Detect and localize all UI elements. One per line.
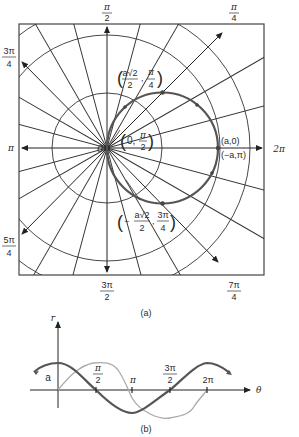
- point-label-a-0: (a,0): [221, 136, 240, 146]
- svg-text:,: ,: [152, 216, 155, 226]
- svg-text:(: (: [120, 131, 126, 151]
- label-3pi-over-4-num: 3π: [3, 46, 14, 56]
- caption-a: (a): [141, 308, 152, 318]
- label-3pi-over-2-den: 2: [104, 292, 109, 302]
- tick-3pi-over-2-den: 2: [167, 375, 172, 385]
- svg-text:2: 2: [139, 223, 144, 233]
- label-3pi-over-4-den: 4: [6, 59, 11, 69]
- label-pi-over-2-num: π: [103, 2, 111, 12]
- theta-axis-label: θ: [256, 385, 262, 395]
- svg-text:π: π: [147, 67, 155, 77]
- label-5pi-over-4-den: 4: [6, 248, 11, 258]
- label-7pi-over-4-num: 7π: [228, 280, 239, 290]
- label-2pi: 2π: [272, 144, 286, 154]
- svg-text:−: −: [124, 216, 129, 226]
- tick-pi-over-2-num: π: [94, 363, 102, 373]
- label-pi-over-4-den: 4: [231, 13, 236, 23]
- svg-text:): ): [157, 68, 163, 88]
- svg-text:2: 2: [140, 142, 145, 152]
- svg-text:(: (: [117, 212, 123, 232]
- point-label-neg-a-root2-3pi-over-4: ( − a√2 2 , 3π 4 ): [117, 210, 176, 233]
- polar-figure: π 2 π 4 3π 4 π 2π 5π 4 3π 2 7π 4 0 ( a√2…: [0, 0, 299, 437]
- svg-text:,: ,: [141, 73, 144, 83]
- amplitude-label: a: [45, 372, 51, 383]
- svg-text:a√2: a√2: [123, 68, 138, 78]
- r-axis-label: r: [51, 313, 56, 323]
- cartesian-figure: r θ a π 2 π 3π 2 2π (b): [30, 313, 262, 434]
- label-pi-over-4-num: π: [230, 2, 238, 12]
- caption-b: (b): [141, 424, 152, 434]
- svg-text:2: 2: [127, 80, 132, 90]
- svg-text:a√2: a√2: [135, 210, 150, 220]
- tick-pi: π: [129, 375, 137, 385]
- tick-3pi-over-2-num: 3π: [164, 363, 175, 373]
- svg-text:π: π: [139, 130, 147, 140]
- label-5pi-over-4-num: 5π: [3, 235, 14, 245]
- svg-text:0,: 0,: [127, 135, 135, 146]
- svg-text:3π: 3π: [157, 210, 168, 220]
- point-label-neg-a-pi: (−a,π): [221, 150, 246, 160]
- svg-text:): ): [148, 131, 154, 151]
- label-7pi-over-4-den: 4: [231, 292, 236, 302]
- svg-text:4: 4: [148, 80, 153, 90]
- tick-pi-over-2-den: 2: [95, 375, 100, 385]
- label-3pi-over-2-num: 3π: [101, 280, 112, 290]
- label-pi: π: [7, 143, 15, 153]
- point-label-0-pi-over-2: ( 0, π 2 ): [120, 130, 154, 152]
- tick-2pi: 2π: [202, 375, 213, 385]
- label-pi-over-2-den: 2: [104, 13, 109, 23]
- svg-text:4: 4: [160, 223, 165, 233]
- pole-label: 0: [97, 143, 104, 154]
- svg-text:): ): [170, 212, 176, 232]
